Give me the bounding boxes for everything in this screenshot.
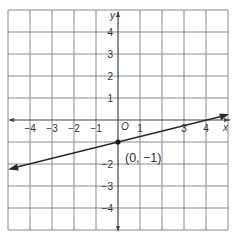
coordinate-plane: −4 −3 −2 −1 1 3 4 4 3 2 1 −2 −3 −4 y x O… [0, 0, 235, 243]
x-tick: −3 [46, 123, 58, 134]
x-tick: −1 [90, 123, 102, 134]
y-tick: −3 [102, 181, 114, 192]
x-axis-label: x [222, 122, 229, 133]
y-axis-up-arrow-icon [116, 11, 120, 17]
x-tick-labels: −4 −3 −2 −1 1 3 4 [24, 123, 209, 134]
x-tick: −4 [24, 123, 36, 134]
x-tick: 1 [137, 123, 143, 134]
y-tick: 3 [107, 49, 113, 60]
y-axis-down-arrow-icon [116, 226, 120, 232]
axes [8, 11, 230, 232]
x-tick: 4 [203, 123, 209, 134]
y-tick: 4 [107, 27, 113, 38]
x-tick: −2 [68, 123, 80, 134]
y-tick: −4 [102, 203, 114, 214]
x-axis-left-arrow-icon [8, 118, 14, 122]
y-tick: −2 [102, 159, 114, 170]
origin-label: O [121, 121, 129, 132]
y-tick: 2 [107, 71, 113, 82]
y-intercept-point [115, 139, 120, 144]
y-tick: 1 [107, 93, 113, 104]
y-axis-label: y [109, 10, 116, 21]
point-label: (0, −1) [125, 151, 161, 165]
line-left-arrow-icon [8, 164, 19, 171]
